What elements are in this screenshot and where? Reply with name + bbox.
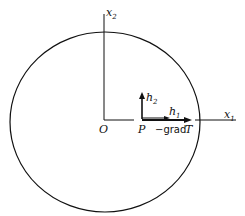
origin-label: O bbox=[99, 123, 108, 136]
x1-label: x1 bbox=[224, 108, 235, 123]
x2-label: x2 bbox=[106, 6, 117, 21]
h1-label: h1 bbox=[169, 105, 181, 120]
h2-arrowhead bbox=[139, 92, 145, 99]
grad-t-label: T bbox=[185, 123, 194, 136]
circle-boundary bbox=[10, 32, 200, 212]
point-p-label: P bbox=[137, 123, 146, 136]
grad-label: −grad bbox=[155, 124, 186, 135]
diagram-canvas: x2 x1 O P h2 h1 −grad T bbox=[0, 0, 245, 216]
h2-label: h2 bbox=[146, 91, 158, 106]
